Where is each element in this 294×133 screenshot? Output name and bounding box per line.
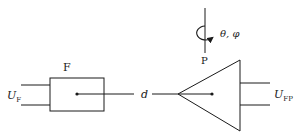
receiver-center-dot <box>210 92 213 95</box>
input-voltage-label: UF <box>7 89 21 104</box>
distance-label: d <box>141 88 148 101</box>
axis-label-p: P <box>201 55 208 66</box>
rotation-arrow-icon <box>197 26 212 40</box>
rotation-axis: P θ, φ <box>197 8 240 66</box>
rotation-angles-label: θ, φ <box>220 28 239 39</box>
receiver-triangle <box>178 60 240 131</box>
output-voltage-label: UFP <box>274 88 293 103</box>
block-f-label: F <box>63 61 71 74</box>
source-block-f: F UF <box>7 61 104 111</box>
connection-d: d <box>77 88 178 101</box>
diagram-canvas: F UF d UFP P θ, φ <box>0 0 294 133</box>
receiver-block-p: UFP <box>178 60 293 131</box>
